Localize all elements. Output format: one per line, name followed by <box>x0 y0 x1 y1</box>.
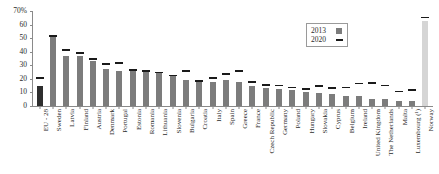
x-label-slot: Belgium <box>339 109 352 173</box>
bar-group <box>60 11 73 106</box>
bar-group <box>392 11 405 106</box>
x-label-slot: Portugal <box>113 109 126 173</box>
bar-group <box>272 11 285 106</box>
marker-2020 <box>355 83 363 85</box>
bar-2013 <box>276 89 282 106</box>
y-tick-label: 60 <box>20 21 28 29</box>
x-label-slot: Bulgaria <box>179 109 192 173</box>
x-label-slot: Lithuania <box>153 109 166 173</box>
marker-2020 <box>222 73 230 75</box>
marker-2020 <box>395 91 403 93</box>
bar-2013 <box>236 82 242 106</box>
bar-group <box>246 11 259 106</box>
bar-group <box>113 11 126 106</box>
bar-2013 <box>63 56 69 106</box>
bar-2013 <box>156 73 162 106</box>
bar-2013 <box>183 80 189 106</box>
bar-2013 <box>223 80 229 106</box>
x-label-slot: Spain <box>219 109 232 173</box>
x-label-slot: EU - 28 <box>33 109 46 173</box>
legend-bar-swatch-icon <box>336 28 342 34</box>
marker-2020 <box>182 70 190 72</box>
marker-2020 <box>155 72 163 74</box>
bar-2013 <box>196 82 202 106</box>
x-label-slot: United Kingdom <box>366 109 379 173</box>
y-tick-label: 0 <box>23 102 27 110</box>
marker-2020 <box>408 89 416 91</box>
marker-2020 <box>76 52 84 54</box>
bar-group <box>46 11 59 106</box>
y-tick-label: 50 <box>20 34 28 42</box>
marker-2020 <box>421 17 429 19</box>
x-label-slot: Norway <box>419 109 432 173</box>
x-axis: EU - 28SwedenLatviaFinlandAustriaDenmark… <box>33 109 432 173</box>
x-label-slot: Romania <box>139 109 152 173</box>
marker-2020 <box>235 70 243 72</box>
bar-2013 <box>143 72 149 106</box>
marker-2020 <box>129 69 137 71</box>
marker-2020 <box>275 85 283 87</box>
bar-2013 <box>382 99 388 106</box>
bar-group <box>405 11 418 106</box>
bar-group <box>419 11 432 106</box>
y-tick-label: 10 <box>20 88 28 96</box>
y-tick-label: 40 <box>20 48 28 56</box>
marker-2020 <box>262 84 270 86</box>
marker-2020 <box>102 63 110 65</box>
x-label-slot: Poland <box>286 109 299 173</box>
x-label-slot: Latvia <box>60 109 73 173</box>
bar-group <box>100 11 113 106</box>
marker-2020 <box>62 49 70 51</box>
marker-2020 <box>342 87 350 89</box>
x-label-slot: Czech Republic <box>259 109 272 173</box>
x-label-slot: Slovenia <box>166 109 179 173</box>
bar-2013 <box>343 96 349 106</box>
bar-group <box>286 11 299 106</box>
bar-group <box>73 11 86 106</box>
x-label-slot: Austria <box>86 109 99 173</box>
x-label-slot: Ireland <box>352 109 365 173</box>
marker-2020 <box>248 81 256 83</box>
bar-group <box>153 11 166 106</box>
x-label-slot: Finland <box>73 109 86 173</box>
x-label-slot: France <box>246 109 259 173</box>
x-label-slot: The Netherlands <box>379 109 392 173</box>
bar-group <box>179 11 192 106</box>
bar-2013 <box>316 93 322 106</box>
x-tick-label: Norway <box>428 109 435 132</box>
bar-2013 <box>170 76 176 106</box>
x-label-slot: Croatia <box>193 109 206 173</box>
bar-2013 <box>37 86 43 106</box>
bar-2013 <box>289 90 295 106</box>
marker-2020 <box>89 58 97 60</box>
x-label-slot: Slovakia <box>312 109 325 173</box>
x-label-slot: Italy <box>206 109 219 173</box>
legend-label-2013: 2013 <box>311 26 331 35</box>
legend: 2013 2020 <box>306 23 348 47</box>
marker-2020 <box>288 87 296 89</box>
marker-2020 <box>381 85 389 87</box>
bar-group <box>33 11 46 106</box>
bar-group <box>233 11 246 106</box>
legend-dash-swatch-icon <box>336 39 343 41</box>
bar-2013 <box>77 56 83 106</box>
marker-2020 <box>36 77 44 79</box>
marker-2020 <box>315 85 323 87</box>
x-label-slot: Sweden <box>46 109 59 173</box>
bar-group <box>166 11 179 106</box>
bar-2013 <box>103 69 109 106</box>
bar-group <box>352 11 365 106</box>
marker-2020 <box>328 87 336 89</box>
x-label-slot: Malta <box>392 109 405 173</box>
y-tick-label: 20 <box>20 75 28 83</box>
bar-2013 <box>369 99 375 106</box>
marker-2020 <box>195 80 203 82</box>
bar-2013 <box>116 71 122 106</box>
marker-2020 <box>115 62 123 64</box>
bar-2013 <box>130 71 136 106</box>
marker-2020 <box>209 77 217 79</box>
bar-2013 <box>356 96 362 106</box>
bar-group <box>366 11 379 106</box>
chart-container: 70%6050403020100 EU - 28SwedenLatviaFinl… <box>0 0 439 174</box>
legend-label-2020: 2020 <box>311 35 331 44</box>
